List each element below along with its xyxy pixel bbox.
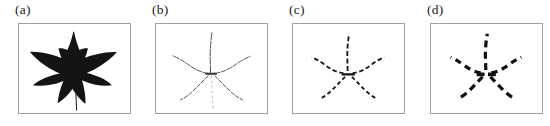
panel-frame-b <box>155 23 268 114</box>
figure-root: (a) (b) <box>0 0 550 126</box>
panel-label-c: (c) <box>289 2 305 18</box>
panel-d: (d) <box>412 0 549 126</box>
panel-frame-d <box>430 23 543 114</box>
panel-c: (c) <box>274 0 411 126</box>
panel-a: (a) <box>0 0 137 126</box>
leaf-silhouette-image <box>19 24 130 113</box>
panel-label-a: (a) <box>15 2 31 18</box>
panel-b: (b) <box>137 0 274 126</box>
panel-label-b: (b) <box>152 2 168 18</box>
panel-frame-a <box>18 23 131 114</box>
skeleton-coarse-image <box>431 24 542 113</box>
panel-frame-c <box>292 23 405 114</box>
skeleton-fine-image <box>156 24 267 113</box>
skeleton-medium-image <box>293 24 404 113</box>
panel-label-d: (d) <box>427 2 443 18</box>
